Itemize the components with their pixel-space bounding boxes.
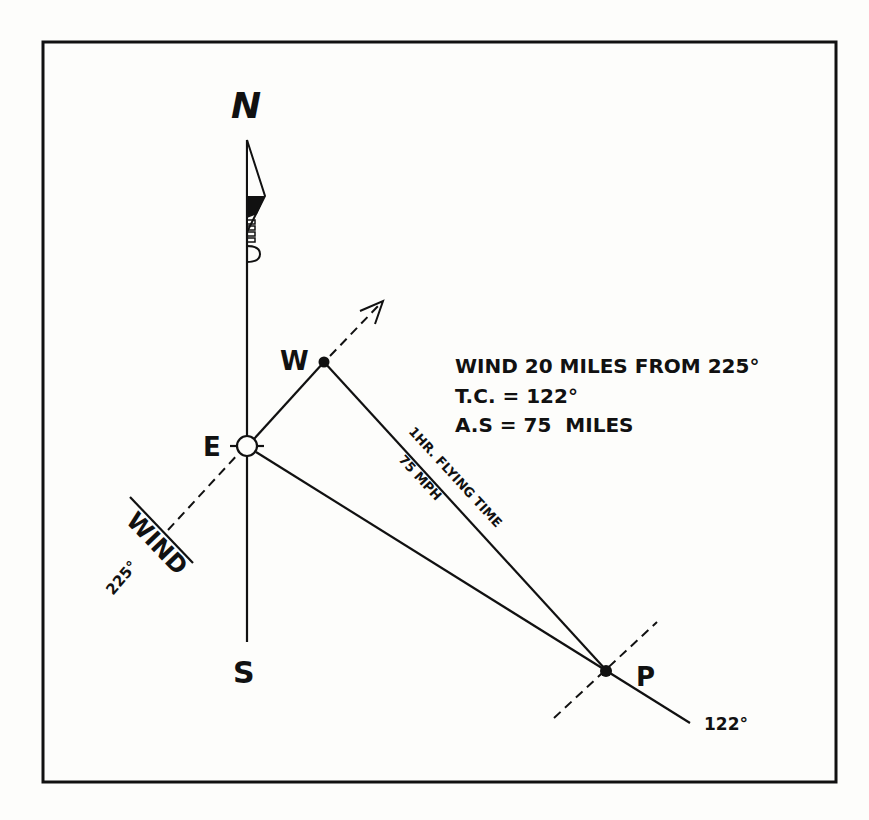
wind-triangle-diagram: N S WIND 225° E W 1HR. FLYING TIME 75 MP… [0, 0, 869, 820]
air-vector-W-to-P [324, 362, 606, 670]
point-P-label: P [636, 662, 655, 692]
point-E-label: E [203, 432, 221, 462]
south-label: S [233, 655, 255, 690]
info-line-airspeed: A.S = 75 MILES [455, 413, 633, 437]
point-W-label: W [280, 346, 309, 376]
north-label: N [231, 85, 261, 126]
point-E-marker [237, 436, 257, 456]
wind-bearing-label: 225° [102, 557, 141, 598]
info-line-wind: WIND 20 MILES FROM 225° [455, 354, 759, 378]
wind-line-lower-dashed [168, 452, 240, 530]
diagram-frame [43, 42, 836, 782]
north-pointer-icon [247, 140, 265, 262]
point-P-marker [600, 665, 612, 677]
track-bearing-label: 122° [704, 714, 748, 734]
wind-line-upper-dashed [330, 304, 380, 356]
info-line-true-course: T.C. = 122° [455, 384, 578, 408]
